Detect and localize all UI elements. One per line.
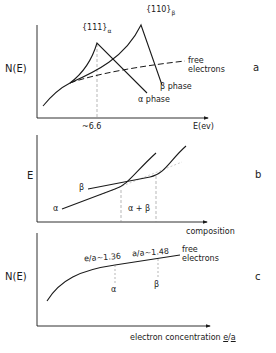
- beta-energy-curve: [88, 146, 186, 189]
- panel-a-plot: [37, 25, 208, 118]
- alpha-label-b: α: [53, 205, 58, 213]
- panel-b-xlabel: composition: [186, 228, 235, 236]
- alpha-phase-label: α phase: [138, 96, 170, 104]
- panel-a-base-curve: [43, 83, 70, 106]
- panel-c-xlabel: electron concentration e/a: [130, 334, 236, 342]
- diagram-canvas: [0, 0, 276, 353]
- panel-c-ylabel: N(E): [5, 272, 27, 282]
- two-phase-label: α + β: [128, 205, 150, 213]
- panel-a-ylabel: N(E): [5, 64, 27, 74]
- alpha-label-c: α: [111, 286, 116, 294]
- panel-b-ylabel: E: [27, 171, 33, 181]
- panel-b-plot: [37, 135, 207, 222]
- free-electrons-label-a: freeelectrons: [188, 57, 225, 74]
- panel-b-letter: b: [255, 170, 261, 180]
- beta-phase-label: β phase: [160, 83, 192, 91]
- free-electrons-curve-c: [47, 255, 180, 301]
- beta-label-b: β: [79, 184, 84, 192]
- tick-6-6: ~6.6: [82, 123, 101, 131]
- beta-phase-curve: [70, 25, 162, 85]
- free-electrons-label-c: freeelectrons: [182, 246, 219, 263]
- panel-c-letter: c: [255, 272, 261, 282]
- panel-a-letter: a: [253, 63, 259, 73]
- peak-beta-label: {110}β: [146, 6, 175, 16]
- peak-alpha-label: {111}α: [82, 24, 111, 34]
- alpha-energy-curve: [62, 153, 156, 209]
- beta-label-c: β: [154, 281, 159, 289]
- panel-a-xlabel: E(ev): [193, 123, 214, 131]
